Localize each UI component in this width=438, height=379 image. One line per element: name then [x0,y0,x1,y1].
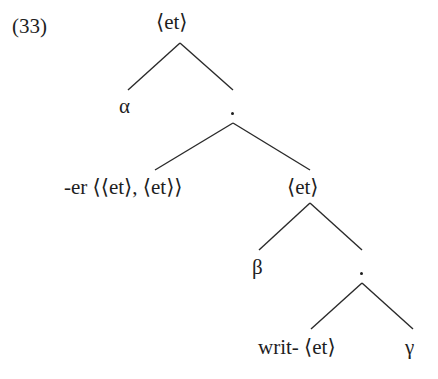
branch-root-left [128,43,180,90]
root-node-label: ⟨et⟩ [156,12,188,33]
intermediate-node-dot-2 [360,272,363,275]
gamma-node-label: γ [405,337,414,358]
branch-node1-left [155,123,233,170]
branch-node3-left [311,283,362,329]
branch-node1-right [233,123,310,170]
beta-node-label: β [252,257,263,278]
intermediate-node-dot-1 [231,112,234,115]
branch-root-right [180,43,233,90]
writ-node-label: writ- ⟨et⟩ [258,337,336,358]
er-node-label: -er ⟨⟨et⟩, ⟨et⟩⟩ [64,177,183,198]
example-number: (33) [12,16,47,37]
et-node-label: ⟨et⟩ [287,177,319,198]
branch-node2-left [259,203,310,250]
alpha-node-label: α [119,96,130,117]
branch-node2-right [310,203,362,250]
branch-node3-right [362,283,413,329]
